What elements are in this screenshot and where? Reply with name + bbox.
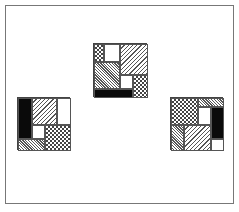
piece-black [211, 107, 224, 139]
square-top [93, 43, 147, 97]
piece-white [120, 75, 133, 89]
piece-diag-fine [94, 62, 120, 89]
piece-white [57, 98, 71, 125]
piece-check [45, 125, 71, 151]
piece-diag-fine [18, 139, 45, 151]
piece-diag-wide [32, 98, 57, 125]
square-right [170, 97, 223, 150]
piece-diag-fine [198, 98, 224, 107]
piece-white [104, 44, 120, 62]
piece-white [211, 139, 224, 151]
piece-white [198, 107, 211, 125]
piece-check [133, 75, 148, 98]
piece-diag-wide [120, 44, 148, 75]
piece-black [94, 89, 133, 98]
piece-check [171, 98, 198, 125]
piece-white [32, 125, 45, 139]
piece-black [18, 98, 32, 139]
piece-diag-wide [184, 125, 211, 151]
square-left [17, 97, 70, 150]
piece-diag-fine [171, 125, 184, 151]
piece-check [94, 44, 104, 62]
